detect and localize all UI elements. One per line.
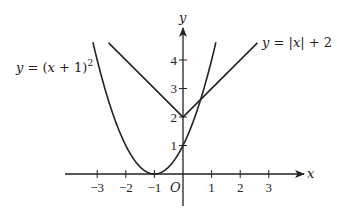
y-tick-label: 1 [171, 138, 178, 153]
y-tick-label: 4 [171, 53, 178, 68]
abs-label: y = |x| + 2 [261, 35, 332, 50]
y-tick-label: 2 [171, 110, 178, 125]
parabola-curve [93, 42, 216, 174]
x-tick-label: 3 [266, 180, 273, 195]
x-tick-label: 1 [208, 180, 215, 195]
x-tick-label: 2 [237, 180, 244, 195]
parabola-label: y = (x + 1)2 [15, 58, 93, 75]
x-tick-label: −2 [119, 180, 133, 195]
x-tick-label: −3 [90, 180, 104, 195]
y-axis-label: y [178, 10, 187, 25]
origin-label: O [170, 180, 181, 195]
y-tick-label: 3 [171, 81, 178, 96]
y-ticks: 1234 [171, 53, 188, 154]
graph-canvas: −3−2−1123 1234 x y O y = (x + 1)2 y = |x… [0, 0, 337, 215]
x-tick-label: −1 [147, 180, 161, 195]
x-axis-label: x [307, 166, 315, 181]
